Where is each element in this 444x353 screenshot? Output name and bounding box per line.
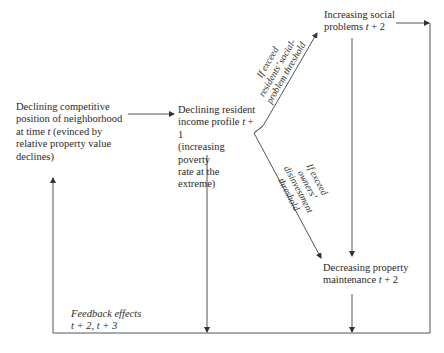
node-social-problems: Increasing social problems t + 2 bbox=[324, 9, 404, 34]
text-line: maintenance t + 2 bbox=[323, 274, 423, 286]
feedback-label: Feedback effects t + 2, t + 3 bbox=[71, 308, 141, 333]
text-line: Increasing social bbox=[324, 9, 404, 21]
text-line: relative property value bbox=[16, 138, 131, 150]
text-line: position of neighborhood bbox=[16, 113, 131, 125]
node-competitive-position: Declining competitive position of neighb… bbox=[16, 101, 131, 163]
text-line: declines) bbox=[16, 151, 131, 163]
text-line: income profile t + 1 bbox=[178, 116, 258, 141]
text-line: (increasing poverty bbox=[178, 141, 258, 166]
text-line: at time t (evinced by bbox=[16, 126, 131, 138]
node-income-profile: Declining resident income profile t + 1 … bbox=[178, 104, 258, 191]
text-line: problems t + 2 bbox=[324, 21, 404, 33]
text-line: Decreasing property bbox=[323, 262, 423, 274]
node-property-maintenance: Decreasing property maintenance t + 2 bbox=[323, 262, 423, 287]
text-line: Declining competitive bbox=[16, 101, 131, 113]
text-line: Declining resident bbox=[178, 104, 258, 116]
text-line: rate at the extreme) bbox=[178, 166, 258, 191]
